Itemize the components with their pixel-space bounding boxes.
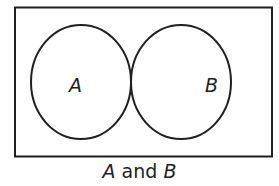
venn-diagram: A B [0,0,279,186]
diagram-caption: A and B [0,160,279,182]
caption-set-a: A [103,160,116,182]
caption-conjunction: and [116,160,164,182]
universal-set-rect [15,8,272,157]
set-a-label: A [67,74,82,96]
set-b-label: B [205,74,218,96]
caption-set-b: B [163,160,176,182]
